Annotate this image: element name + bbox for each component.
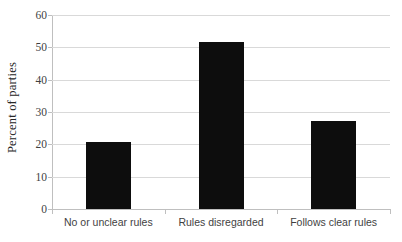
gridline bbox=[52, 15, 390, 16]
y-axis-tick-label: 30 bbox=[3, 106, 47, 118]
x-axis-category-label: No or unclear rules bbox=[52, 216, 165, 228]
y-axis-tick bbox=[48, 209, 52, 210]
y-axis-tick-label: 40 bbox=[3, 74, 47, 86]
y-axis-tick-label: 60 bbox=[3, 9, 47, 21]
bar bbox=[86, 142, 131, 209]
x-axis-category-labels: No or unclear rulesRules disregardedFoll… bbox=[52, 216, 390, 238]
y-axis-tick bbox=[48, 112, 52, 113]
x-axis-tick bbox=[277, 209, 278, 214]
x-axis-tick bbox=[52, 209, 53, 214]
y-axis-tick-label: 0 bbox=[3, 203, 47, 215]
bar bbox=[311, 121, 356, 209]
y-axis-tick-label: 20 bbox=[3, 138, 47, 150]
x-axis-category-label: Rules disregarded bbox=[165, 216, 278, 228]
y-axis-tick-label: 50 bbox=[3, 41, 47, 53]
plot-area bbox=[52, 15, 390, 209]
y-axis-tick bbox=[48, 177, 52, 178]
bar-chart: Percent of parties 0102030405060 No or u… bbox=[0, 0, 402, 242]
y-axis-tick bbox=[48, 47, 52, 48]
bar bbox=[199, 42, 244, 209]
y-axis-tick bbox=[48, 15, 52, 16]
y-axis-tick-labels: 0102030405060 bbox=[0, 0, 47, 242]
y-axis-tick-label: 10 bbox=[3, 171, 47, 183]
gridline bbox=[52, 209, 390, 210]
y-axis-tick bbox=[48, 80, 52, 81]
x-axis-category-label: Follows clear rules bbox=[277, 216, 390, 228]
x-axis-tick bbox=[165, 209, 166, 214]
y-axis-tick bbox=[48, 144, 52, 145]
x-axis-tick bbox=[390, 209, 391, 214]
